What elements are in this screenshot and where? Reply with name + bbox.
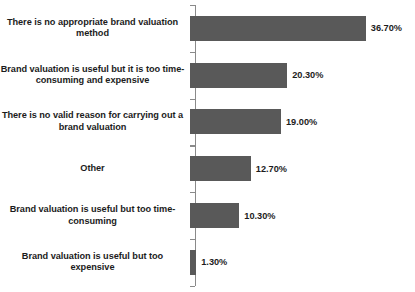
category-label-line1: Brand valuation is useful but too expens… — [22, 251, 163, 273]
bar — [190, 203, 239, 228]
category-label-line1: Other — [80, 163, 104, 173]
table-row: Brand valuation is useful but too time- … — [0, 192, 415, 239]
category-label-line2: method — [76, 28, 109, 38]
category-label-line1: There is no valid reason for carrying ou… — [2, 110, 183, 120]
bar-container: 10.30% — [190, 192, 415, 239]
category-label: Brand valuation is useful but too time- … — [0, 204, 190, 227]
table-row: There is no appropriate brand valuation … — [0, 5, 415, 52]
category-label-line2: consuming and expensive — [36, 75, 150, 85]
bar — [190, 109, 281, 134]
table-row: Brand valuation is useful but too expens… — [0, 239, 415, 286]
category-label: Other — [0, 163, 190, 175]
table-row: There is no valid reason for carrying ou… — [0, 99, 415, 146]
axis-tick — [190, 286, 195, 287]
bar-container: 12.70% — [190, 145, 415, 192]
bar-value-label: 12.70% — [256, 164, 287, 174]
bar-value-label: 19.00% — [286, 117, 317, 127]
category-label: Brand valuation is useful but too expens… — [0, 251, 190, 274]
bar-value-label: 20.30% — [292, 70, 323, 80]
bar-chart: There is no appropriate brand valuation … — [0, 0, 415, 292]
bar-container: 19.00% — [190, 99, 415, 146]
category-label-line1: Brand valuation is useful but it is too … — [1, 64, 185, 74]
table-row: Other 12.70% — [0, 145, 415, 192]
category-label-line2: brand valuation — [59, 122, 127, 132]
bar-value-label: 10.30% — [244, 211, 275, 221]
category-label: There is no valid reason for carrying ou… — [0, 110, 190, 133]
bar — [190, 16, 366, 41]
bar-value-label: 36.70% — [371, 23, 402, 33]
bar-container: 36.70% — [190, 5, 415, 52]
bar — [190, 63, 287, 88]
bar-container: 20.30% — [190, 52, 415, 99]
bar-container: 1.30% — [190, 239, 415, 286]
bar-value-label: 1.30% — [201, 257, 227, 267]
table-row: Brand valuation is useful but it is too … — [0, 52, 415, 99]
category-label-line2: consuming — [68, 216, 117, 226]
bar — [190, 250, 196, 275]
bar — [190, 156, 251, 181]
category-label: There is no appropriate brand valuation … — [0, 17, 190, 40]
category-label-line1: Brand valuation is useful but too time- — [10, 204, 175, 214]
category-label-line1: There is no appropriate brand valuation — [7, 17, 178, 27]
category-label: Brand valuation is useful but it is too … — [0, 64, 190, 87]
